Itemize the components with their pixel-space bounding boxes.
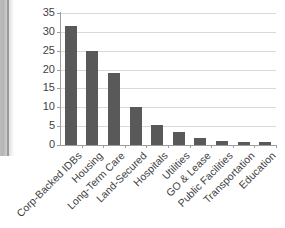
y-axis-tick-label: 35: [30, 7, 55, 18]
x-axis-tick: [82, 145, 83, 148]
plot-area: [60, 13, 276, 145]
y-axis-tick-label: 15: [30, 82, 55, 93]
bar: [173, 132, 185, 145]
bar: [130, 107, 142, 145]
x-axis-tick: [254, 145, 255, 148]
y-axis-tick-label: 5: [30, 120, 55, 131]
x-axis-tick: [190, 145, 191, 148]
x-axis-tick: [211, 145, 212, 148]
y-axis-tick-label: 10: [30, 101, 55, 112]
bar-chart: 05101520253035 Corp-Backed IDBsHousingLo…: [0, 0, 285, 228]
bar: [194, 138, 206, 145]
x-axis-tick: [103, 145, 104, 148]
bar: [86, 51, 98, 145]
y-axis-tick-label: 20: [30, 64, 55, 75]
chart-screenshot: 05101520253035 Corp-Backed IDBsHousingLo…: [0, 0, 285, 228]
x-axis-tick: [146, 145, 147, 148]
y-axis-tick-label: 30: [30, 26, 55, 37]
bar: [238, 142, 250, 145]
y-axis-tick-label: 25: [30, 45, 55, 56]
bar: [151, 125, 163, 145]
bar: [216, 141, 228, 145]
x-axis-tick: [168, 145, 169, 148]
bar: [65, 26, 77, 145]
x-axis-tick: [125, 145, 126, 148]
bar: [108, 73, 120, 145]
x-axis-tick: [276, 145, 277, 148]
y-axis-tick-label: 0: [30, 139, 55, 150]
x-axis-tick: [233, 145, 234, 148]
bar: [259, 142, 271, 145]
